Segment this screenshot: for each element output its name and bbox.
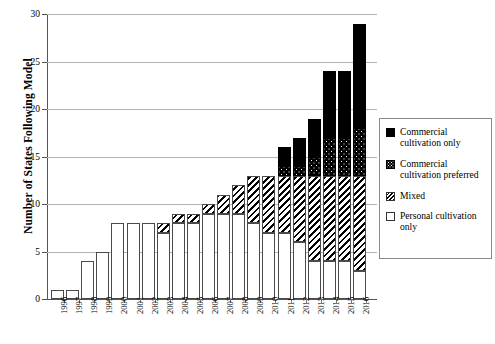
bar-segment-personal-2005 — [187, 223, 200, 299]
legend-item-label-3: Personal cultivationonly — [400, 210, 476, 233]
dotted-black-swatch-icon — [386, 160, 395, 169]
x-tick-label-2013: 2013 — [317, 303, 326, 314]
bar-segment-personal-2013 — [308, 261, 321, 299]
bar-segment-commercial-2013 — [308, 119, 321, 157]
bar-segment-commercial-2012 — [293, 138, 306, 167]
bar-segment-personal-2002 — [142, 223, 155, 299]
y-tick-label-30: 30 — [16, 10, 40, 19]
chart-legend: Commercialcultivation onlyCommercialcult… — [379, 118, 492, 259]
bar-segment-personal-2009 — [247, 223, 260, 299]
bar-segment-personal-1998 — [81, 261, 94, 299]
bar-segment-commercial-2015 — [338, 71, 351, 138]
y-tick-label-5: 5 — [16, 247, 40, 256]
y-tick-label-10: 10 — [16, 200, 40, 209]
legend-item-3: Personal cultivationonly — [386, 210, 487, 233]
bar-segment-preferred-2015 — [338, 138, 351, 176]
bar-segment-personal-2015 — [338, 261, 351, 299]
bar-segment-preferred-2016 — [353, 128, 366, 176]
x-tick-label-1999: 1999 — [105, 303, 114, 314]
plot-area: 051015202530 199619971998199920002001200… — [47, 14, 377, 300]
y-tick-label-20: 20 — [16, 105, 40, 114]
bar-segment-preferred-2011 — [278, 166, 291, 176]
legend-item-label-0: Commercialcultivation only — [400, 126, 461, 149]
bar-segment-mixed-2009 — [247, 176, 260, 224]
bar-segment-personal-2010 — [262, 233, 275, 300]
bar-segment-personal-2000 — [111, 223, 124, 299]
bar-segment-preferred-2013 — [308, 157, 321, 176]
hatched-swatch-icon — [386, 192, 395, 201]
bar-segment-preferred-2014 — [323, 138, 336, 176]
stacked-bar-chart: Number of States Following Model 0510152… — [0, 0, 495, 344]
bar-segment-mixed-2010 — [262, 176, 275, 233]
bar-segment-mixed-2013 — [308, 176, 321, 262]
x-tick-label-2006: 2006 — [211, 303, 220, 314]
bar-segment-personal-1999 — [96, 252, 109, 300]
x-tick-label-2008: 2008 — [241, 303, 250, 314]
x-tick-label-2014: 2014 — [332, 303, 341, 314]
bar-segment-personal-2008 — [232, 214, 245, 300]
y-tick-label-0: 0 — [16, 295, 40, 304]
x-tick-label-2000: 2000 — [120, 303, 129, 314]
legend-item-2: Mixed — [386, 190, 487, 201]
x-tick-label-1996: 1996 — [60, 303, 69, 314]
x-tick-label-2001: 2001 — [136, 303, 145, 314]
bar-segment-mixed-2008 — [232, 185, 245, 214]
x-tick-label-2005: 2005 — [196, 303, 205, 314]
x-tick-label-2009: 2009 — [256, 303, 265, 314]
x-tick-label-2016: 2016 — [362, 303, 371, 314]
bar-series-group — [47, 14, 377, 300]
x-tick-label-2012: 2012 — [302, 303, 311, 314]
x-tick-label-2003: 2003 — [166, 303, 175, 314]
x-tick-label-2002: 2002 — [151, 303, 160, 314]
bar-segment-personal-2003 — [157, 233, 170, 300]
bar-segment-mixed-2003 — [157, 223, 170, 233]
bar-segment-personal-2016 — [353, 271, 366, 300]
legend-item-label-1: Commercialcultivation preferred — [400, 158, 479, 181]
bar-segment-mixed-2004 — [172, 214, 185, 224]
bar-segment-personal-2001 — [127, 223, 140, 299]
y-tick-label-25: 25 — [16, 57, 40, 66]
bar-segment-commercial-2011 — [278, 147, 291, 166]
x-tick-label-1998: 1998 — [90, 303, 99, 314]
bar-segment-personal-2004 — [172, 223, 185, 299]
bar-segment-commercial-2016 — [353, 24, 366, 129]
solid-black-swatch-icon — [386, 128, 395, 137]
x-tick-label-2007: 2007 — [226, 303, 235, 314]
bar-segment-mixed-2016 — [353, 176, 366, 271]
bar-segment-personal-2007 — [217, 214, 230, 300]
bar-segment-mixed-2007 — [217, 195, 230, 214]
legend-item-label-2: Mixed — [400, 190, 425, 201]
bar-segment-mixed-2015 — [338, 176, 351, 262]
bar-segment-personal-2006 — [202, 214, 215, 300]
bar-segment-personal-2014 — [323, 261, 336, 299]
x-tick-label-2011: 2011 — [287, 303, 296, 314]
bar-segment-commercial-2014 — [323, 71, 336, 138]
x-tick-label-2015: 2015 — [347, 303, 356, 314]
bar-segment-preferred-2012 — [293, 166, 306, 176]
bar-segment-mixed-2006 — [202, 204, 215, 214]
y-tick-label-15: 15 — [16, 152, 40, 161]
x-tick-label-2010: 2010 — [271, 303, 280, 314]
white-swatch-icon — [386, 212, 395, 221]
bar-segment-mixed-2005 — [187, 214, 200, 224]
bar-segment-mixed-2014 — [323, 176, 336, 262]
bar-segment-mixed-2011 — [278, 176, 291, 233]
legend-item-1: Commercialcultivation preferred — [386, 158, 487, 181]
bar-segment-mixed-2012 — [293, 176, 306, 243]
x-tick-label-1997: 1997 — [75, 303, 84, 314]
x-tick-label-2004: 2004 — [181, 303, 190, 314]
bar-segment-personal-2012 — [293, 242, 306, 299]
bar-segment-personal-2011 — [278, 233, 291, 300]
legend-item-0: Commercialcultivation only — [386, 126, 487, 149]
